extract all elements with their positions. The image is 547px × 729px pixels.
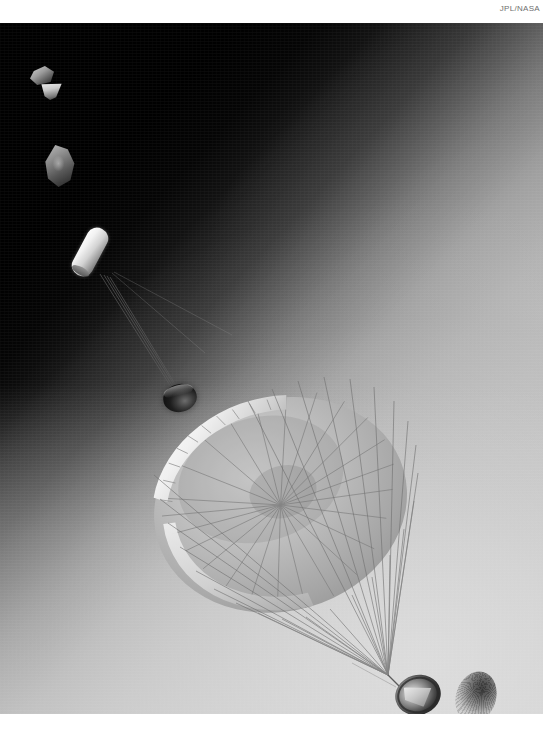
film-grain-overlay <box>0 23 543 714</box>
artwork-frame <box>0 23 543 714</box>
page-root: JPL/NASA <box>0 0 547 729</box>
image-credit: JPL/NASA <box>500 4 540 13</box>
